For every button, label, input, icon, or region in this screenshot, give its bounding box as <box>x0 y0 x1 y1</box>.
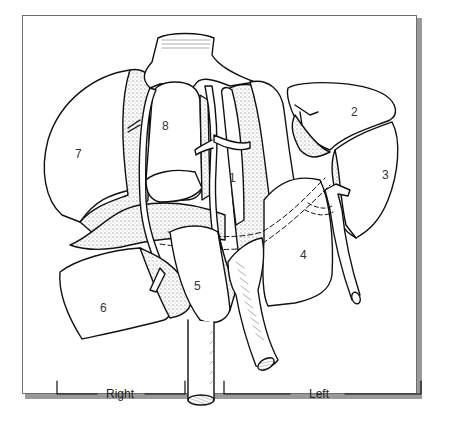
right-side-label: Right <box>106 387 135 401</box>
segment-5-label: 5 <box>194 279 201 293</box>
segment-6-label: 6 <box>100 301 107 315</box>
segment-2-label: 2 <box>351 105 358 119</box>
segment-7-label: 7 <box>75 147 82 161</box>
segment-3-label: 3 <box>382 168 389 182</box>
liver-segments-diagram: 7 8 1 2 3 4 5 6 Right Left <box>0 0 460 437</box>
hepatic-vein-top <box>144 34 255 91</box>
segment-8-label: 8 <box>162 119 169 133</box>
segment-4-outline <box>263 178 333 306</box>
segment-1-label: 1 <box>229 171 236 185</box>
segment-4-label: 4 <box>300 248 307 262</box>
left-side-label: Left <box>309 387 330 401</box>
inferior-vena-cava <box>188 320 214 403</box>
